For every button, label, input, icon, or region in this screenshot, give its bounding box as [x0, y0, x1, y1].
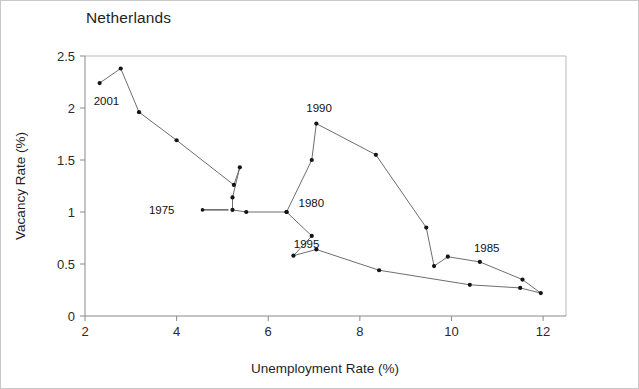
data-point-marker [244, 210, 248, 214]
annotation-label-1990: 1990 [306, 102, 332, 114]
data-point-marker [446, 255, 450, 259]
data-point-marker [119, 66, 123, 70]
axis-ticks [80, 56, 543, 321]
data-point-marker [424, 226, 428, 230]
figure-container: Netherlands 00.511.522.524681012 2001199… [0, 0, 639, 389]
data-point-annotations: 200119901980197519951985 [94, 95, 500, 254]
x-axis-title: Unemployment Rate (%) [251, 361, 399, 376]
chart-plot: 00.511.522.524681012 2001199019801975199… [1, 1, 639, 389]
data-point-marker [377, 268, 381, 272]
data-point-marker [98, 81, 102, 85]
data-point-marker [137, 110, 141, 114]
x-tick-label: 2 [81, 324, 88, 339]
data-point-marker [539, 291, 543, 295]
y-axis-title: Vacancy Rate (%) [13, 132, 28, 240]
y-tick-label: 1 [68, 205, 75, 220]
annotation-label-1995: 1995 [294, 238, 320, 250]
annotation-leader-dot [201, 208, 205, 212]
annotation-label-1985: 1985 [474, 242, 500, 254]
data-point-marker [238, 165, 242, 169]
data-point-marker [468, 283, 472, 287]
annotation-label-1980: 1980 [299, 197, 325, 209]
data-point-marker [175, 138, 179, 142]
data-point-marker [518, 286, 522, 290]
data-point-marker [284, 210, 288, 214]
data-point-marker [478, 260, 482, 264]
x-tick-label: 4 [173, 324, 180, 339]
data-point-marker [230, 195, 234, 199]
x-tick-label: 8 [356, 324, 363, 339]
y-tick-label: 2.5 [57, 49, 75, 64]
plot-frame [85, 56, 566, 316]
data-point-marker [291, 254, 295, 258]
annotation-label-1975: 1975 [149, 204, 175, 216]
y-tick-label: 0 [68, 309, 75, 324]
y-tick-label: 2 [68, 101, 75, 116]
data-point-marker [314, 122, 318, 126]
data-point-marker [310, 158, 314, 162]
x-tick-label: 12 [536, 324, 550, 339]
annotation-label-2001: 2001 [94, 95, 120, 107]
x-tick-label: 10 [444, 324, 458, 339]
data-point-marker [374, 153, 378, 157]
x-tick-label: 6 [265, 324, 272, 339]
data-point-marker [230, 208, 234, 212]
data-point-marker [432, 264, 436, 268]
data-point-marker [232, 183, 236, 187]
data-point-marker [520, 278, 524, 282]
y-tick-label: 0.5 [57, 257, 75, 272]
y-tick-label: 1.5 [57, 153, 75, 168]
